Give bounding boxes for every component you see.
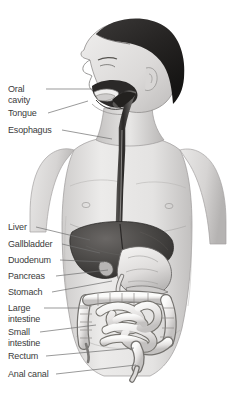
rectum-organ <box>136 346 139 368</box>
label-gallbladder: Gallbladder <box>8 239 52 250</box>
label-anal-canal: Anal canal <box>8 369 49 380</box>
leader-line-tongue <box>48 101 88 113</box>
label-liver: Liver <box>8 222 27 233</box>
label-esophagus: Esophagus <box>8 125 52 136</box>
digestive-system-figure: Oral cavityTongueEsophagusLiverGallbladd… <box>0 0 238 396</box>
label-tongue: Tongue <box>8 108 37 119</box>
label-pancreas: Pancreas <box>8 271 45 282</box>
label-rectum: Rectum <box>8 351 38 362</box>
label-stomach: Stomach <box>8 287 42 298</box>
label-duodenum: Duodenum <box>8 255 51 266</box>
label-oral-cavity: Oral cavity <box>8 84 30 105</box>
label-small-intestine: Small intestine <box>8 327 40 348</box>
label-large-intestine: Large intestine <box>8 303 40 324</box>
head-and-neck <box>81 18 184 146</box>
